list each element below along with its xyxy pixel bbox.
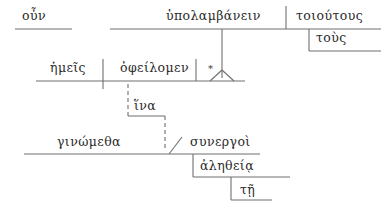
word-te: τῇ [240,184,255,197]
word-hemeis: ἡμεῖς [50,62,86,75]
word-hina: ἵνα [134,100,156,113]
infinitive-tripod-right [222,70,234,81]
word-sunergoi: συνεργοὶ [190,136,251,149]
word-oun: οὖν [22,10,46,23]
word-toioutous: τοιούτους [296,10,363,23]
sentence-diagram: οὖνὑπολαμβάνειντοιούτουςτοὺςἡμεῖςὀφείλομ… [0,0,381,217]
word-aletheia: ἀληθείᾳ [200,160,254,173]
predicate-nominative-slant [169,137,182,154]
baseline-group [15,29,381,200]
word-asterisk: * [208,64,213,74]
slant-group [169,137,182,154]
word-hupolambanein: ὑπολαμβάνειν [166,10,261,23]
word-ginometha: γινώμεθα [57,136,121,149]
word-tous: τοὺς [316,32,347,45]
word-opheilomen: ὀφείλομεν [120,62,189,75]
